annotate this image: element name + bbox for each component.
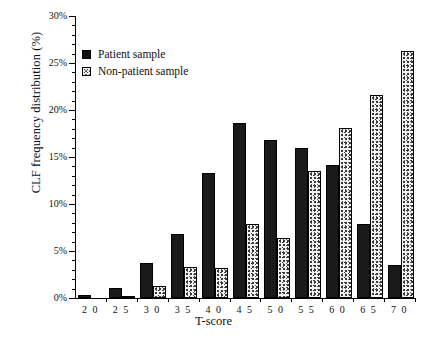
x-axis-title: T-score (0, 314, 427, 329)
bar-nonpatient-55 (308, 171, 321, 298)
bar-group (292, 16, 323, 298)
y-tick-minor (72, 25, 75, 26)
bar-nonpatient-40 (215, 268, 228, 298)
y-tick-major (69, 63, 75, 64)
y-tick-major (69, 204, 75, 205)
bar-group (354, 16, 385, 298)
bar-group (323, 16, 354, 298)
y-tick-minor (72, 289, 75, 290)
bar-group (200, 16, 231, 298)
y-axis-title: CLF frequency distribution (%) (29, 0, 44, 233)
x-tick-mark (291, 298, 292, 302)
bar-nonpatient-50 (277, 238, 290, 298)
bar-patient-35 (171, 234, 184, 298)
bar-patient-70 (388, 265, 401, 298)
y-tick-minor (72, 129, 75, 130)
bar-patient-25 (109, 288, 122, 298)
y-tick-minor (72, 54, 75, 55)
y-tick-minor (72, 166, 75, 167)
x-tick-mark (260, 298, 261, 302)
clf-frequency-bar-chart: CLF frequency distribution (%) 0%5%10%15… (0, 0, 427, 345)
y-tick-minor (72, 242, 75, 243)
y-tick-major (69, 251, 75, 252)
bar-group (385, 16, 416, 298)
bar-nonpatient-65 (370, 95, 383, 298)
bar-patient-20 (78, 295, 91, 298)
y-tick-label: 30% (49, 11, 67, 21)
bar-patient-45 (233, 123, 246, 298)
bar-nonpatient-45 (246, 224, 259, 298)
y-tick-minor (72, 138, 75, 139)
x-tick-mark (322, 298, 323, 302)
y-tick-label: 25% (49, 58, 67, 68)
legend-label-nonpatient: Non-patient sample (98, 66, 188, 78)
bar-nonpatient-30 (153, 286, 166, 298)
y-tick-minor (72, 270, 75, 271)
x-tick-mark (168, 298, 169, 302)
y-tick-minor (72, 91, 75, 92)
legend-item-patient: Patient sample (82, 47, 188, 62)
y-tick-minor (72, 223, 75, 224)
solid-black-swatch-icon (82, 50, 91, 59)
bar-group (261, 16, 292, 298)
y-tick-minor (72, 185, 75, 186)
y-tick-minor (72, 72, 75, 73)
y-tick-minor (72, 35, 75, 36)
legend-item-nonpatient: Non-patient sample (82, 64, 188, 79)
y-tick-minor (72, 260, 75, 261)
y-tick-minor (72, 119, 75, 120)
bar-patient-65 (357, 224, 370, 298)
bar-nonpatient-35 (184, 267, 197, 298)
x-tick-mark (353, 298, 354, 302)
bar-nonpatient-60 (339, 128, 352, 298)
x-tick-mark (415, 298, 416, 302)
y-tick-label: 0% (54, 293, 67, 303)
x-tick-mark (199, 298, 200, 302)
bar-nonpatient-70 (401, 51, 414, 298)
legend-label-patient: Patient sample (98, 49, 165, 61)
y-tick-minor (72, 279, 75, 280)
y-tick-minor (72, 44, 75, 45)
x-tick-mark (137, 298, 138, 302)
bar-group (231, 16, 262, 298)
y-tick-major (69, 298, 75, 299)
stippled-swatch-icon (82, 67, 91, 76)
y-tick-minor (72, 232, 75, 233)
bar-patient-55 (295, 148, 308, 298)
y-tick-major (69, 16, 75, 17)
bar-patient-40 (202, 173, 215, 298)
y-tick-major (69, 157, 75, 158)
bar-patient-50 (264, 140, 277, 298)
x-axis-line (75, 298, 415, 299)
y-tick-label: 20% (49, 105, 67, 115)
y-tick-label: 10% (49, 199, 67, 209)
x-tick-mark (230, 298, 231, 302)
y-tick-minor (72, 101, 75, 102)
bar-patient-30 (140, 263, 153, 298)
y-tick-label: 5% (54, 246, 67, 256)
y-tick-minor (72, 176, 75, 177)
x-tick-mark (106, 298, 107, 302)
y-tick-minor (72, 213, 75, 214)
x-tick-mark (384, 298, 385, 302)
y-tick-minor (72, 148, 75, 149)
y-tick-minor (72, 82, 75, 83)
y-tick-major (69, 110, 75, 111)
bar-patient-60 (326, 165, 339, 298)
y-tick-label: 15% (49, 152, 67, 162)
bar-nonpatient-25 (122, 296, 135, 298)
chart-legend: Patient sample Non-patient sample (82, 47, 188, 81)
y-tick-minor (72, 195, 75, 196)
